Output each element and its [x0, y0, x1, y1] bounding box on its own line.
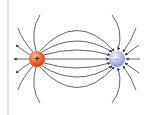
negative-charge: −: [109, 51, 125, 67]
positive-sign: +: [34, 54, 39, 64]
positive-charge: +: [29, 51, 45, 67]
dipole-field-diagram: + −: [0, 0, 155, 115]
negative-sign: −: [115, 55, 120, 64]
